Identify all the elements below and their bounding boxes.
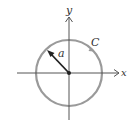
circle-diagram: y x a C <box>0 0 129 127</box>
origin-dot <box>67 71 71 75</box>
curve-label: C <box>91 36 100 49</box>
radius-label: a <box>58 47 65 60</box>
diagram-svg: y x a C <box>0 0 129 127</box>
y-axis-label: y <box>65 4 73 17</box>
x-axis-label: x <box>121 67 127 78</box>
